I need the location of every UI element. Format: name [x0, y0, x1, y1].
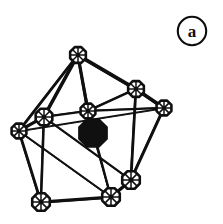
atom-node-open	[128, 81, 144, 97]
bond	[40, 117, 44, 202]
atom-node-open	[122, 171, 140, 189]
atom-node-open	[36, 109, 53, 126]
atom-node-open	[32, 193, 50, 211]
panel-label-letter: a	[175, 14, 209, 48]
atom-node-open	[70, 47, 86, 63]
bond	[41, 197, 111, 203]
atom-node-open	[102, 188, 120, 206]
figure-panel: a	[0, 0, 223, 224]
atom-node-open	[157, 101, 172, 116]
panel-label: a	[175, 14, 209, 48]
bond	[43, 55, 78, 117]
atom-node-open	[12, 124, 27, 139]
bond	[77, 55, 136, 90]
atom-node-filled	[79, 119, 107, 147]
atom-node-open	[81, 104, 96, 119]
bond	[130, 89, 136, 180]
bond	[18, 131, 41, 202]
